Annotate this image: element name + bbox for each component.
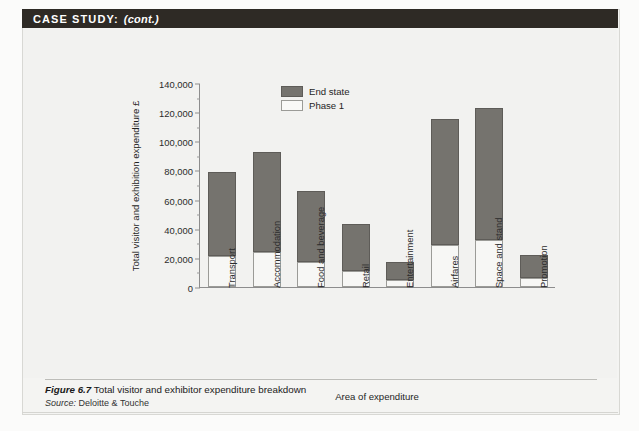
y-tick-minor <box>197 98 200 99</box>
x-tick-label: Space and stand <box>493 218 504 288</box>
x-tick-label: Promotion <box>538 245 549 288</box>
page-bottom-rule <box>22 412 618 413</box>
legend-label: Phase 1 <box>309 100 344 111</box>
y-tick-minor <box>197 156 200 157</box>
legend-swatch-end <box>281 86 303 97</box>
y-tick-major <box>195 229 200 230</box>
case-study-header: CASE STUDY: (cont.) <box>22 9 618 28</box>
caption-source-line: Source: Deloitte & Touche <box>45 397 605 409</box>
y-tick-label: 100,000 <box>137 137 200 148</box>
chart-container: Total visitor and exhibition expenditure… <box>23 29 617 378</box>
y-tick-major <box>195 171 200 172</box>
x-tick-label: Transport <box>226 248 237 288</box>
y-tick-label: 60,000 <box>137 195 200 206</box>
y-tick-label: 20,000 <box>137 253 200 264</box>
y-tick-minor <box>197 127 200 128</box>
y-tick-minor <box>197 273 200 274</box>
y-tick-minor <box>197 186 200 187</box>
x-tick-label: Accommodation <box>271 221 282 288</box>
source-label: Source: <box>45 398 76 408</box>
y-tick-minor <box>197 215 200 216</box>
y-tick-major <box>195 200 200 201</box>
caption-title-line: Figure 6.7 Total visitor and exhibitor e… <box>45 383 605 396</box>
case-study-continued: (cont.) <box>124 13 159 25</box>
y-tick-minor <box>197 244 200 245</box>
figure-caption: Figure 6.7 Total visitor and exhibitor e… <box>45 383 605 409</box>
figure-number: Figure 6.7 <box>45 384 91 395</box>
x-tick-label: Retail <box>360 264 371 288</box>
y-tick-major <box>195 258 200 259</box>
legend-item: End state <box>281 86 350 97</box>
y-tick-major <box>195 288 200 289</box>
bar-segment-end-state <box>431 119 459 244</box>
figure-title: Total visitor and exhibitor expenditure … <box>94 384 306 395</box>
y-tick-major <box>195 142 200 143</box>
y-tick-label: 140,000 <box>137 79 200 90</box>
y-tick-label: 80,000 <box>137 166 200 177</box>
x-tick-label: Food and beverage <box>315 207 326 288</box>
y-tick-label: 0 <box>137 283 200 294</box>
legend-item: Phase 1 <box>281 100 350 111</box>
x-tick-label: Airfares <box>449 256 460 288</box>
y-tick-major <box>195 113 200 114</box>
case-study-label: CASE STUDY: <box>33 13 119 25</box>
y-tick-label: 120,000 <box>137 108 200 119</box>
plot-inner: 020,00040,00060,00080,000100,000120,0001… <box>200 84 555 287</box>
plot-area: 020,00040,00060,00080,000100,000120,0001… <box>199 84 555 288</box>
source-name: Deloitte & Touche <box>79 398 149 408</box>
caption-divider <box>45 379 597 380</box>
figure-page: CASE STUDY: (cont.) Total visitor and ex… <box>0 0 639 431</box>
legend-swatch-phase <box>281 100 303 111</box>
y-tick-major <box>195 84 200 85</box>
x-tick-label: Entertainment <box>404 230 415 288</box>
y-tick-label: 40,000 <box>137 224 200 235</box>
bar-segment-end-state <box>208 172 236 257</box>
chart-legend: End statePhase 1 <box>281 86 350 114</box>
legend-label: End state <box>309 86 350 97</box>
